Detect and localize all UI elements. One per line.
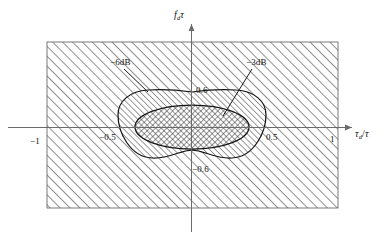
x-axis-label: τd/τ: [355, 129, 369, 140]
x-tick-label-minus-0point5: −0.5: [99, 133, 116, 142]
x-tick-label-0point5: 0.5: [266, 133, 278, 142]
y-tick-label-minus-0point6: −0.6: [192, 165, 209, 174]
y-tick-label-0point6: 0.6: [196, 86, 208, 95]
x-tick-label-1: 1: [330, 135, 335, 144]
ambiguity-contour-figure: fdτ τd/τ −1 −0.5 0.5 1 0.6 −0.6 −6dB −3d…: [0, 0, 387, 240]
annotation-minus-3db: −3dB: [246, 58, 266, 67]
annotation-minus-6db: −6dB: [110, 58, 130, 67]
x-tick-label-minus-1: −1: [30, 137, 40, 146]
contour-plot-svg: [0, 0, 387, 240]
y-axis-label: fdτ: [174, 10, 184, 21]
